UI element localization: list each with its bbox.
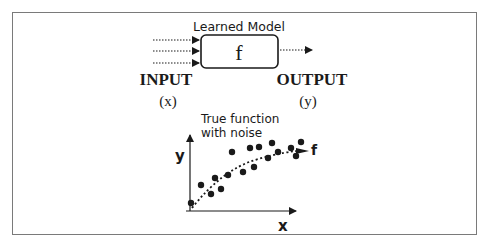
noisy-data-points xyxy=(188,139,304,206)
curve-arrow-icon xyxy=(296,148,309,154)
data-point xyxy=(208,191,214,197)
data-point xyxy=(218,186,224,192)
x-axis-label: x xyxy=(278,217,288,235)
data-point xyxy=(269,140,275,146)
true-function-curve xyxy=(192,151,305,208)
data-point xyxy=(198,182,204,188)
data-point xyxy=(240,169,246,175)
data-point xyxy=(251,164,257,170)
data-point xyxy=(265,155,271,161)
plot-title-line2: with noise xyxy=(201,126,262,140)
output-variable: (y) xyxy=(299,93,317,110)
data-point xyxy=(298,139,304,145)
model-label: Learned Model xyxy=(193,19,285,34)
data-point xyxy=(256,144,262,150)
function-symbol: f xyxy=(235,40,243,65)
output-label: OUTPUT xyxy=(277,70,349,89)
data-point xyxy=(247,145,253,151)
input-label: INPUT xyxy=(140,70,194,89)
y-axis-label: y xyxy=(175,147,185,165)
data-point xyxy=(293,153,299,159)
data-point xyxy=(188,200,194,206)
data-point xyxy=(225,172,231,178)
plot-title-line1: True function xyxy=(200,112,279,126)
diagram-canvas: Learned Model f INPUT (x) OUTPUT (y) Tru… xyxy=(0,0,491,244)
input-arrows xyxy=(153,40,199,63)
data-point xyxy=(212,175,218,181)
data-point xyxy=(229,149,235,155)
curve-label: f xyxy=(311,142,318,158)
data-point xyxy=(275,149,281,155)
input-variable: (x) xyxy=(159,93,177,110)
data-point xyxy=(288,145,294,151)
